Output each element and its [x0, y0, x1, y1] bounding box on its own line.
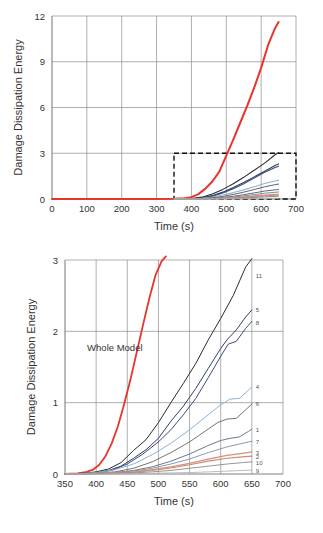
x-tick-label: 350 — [57, 478, 73, 489]
curve-end-label-10: 10 — [256, 460, 263, 466]
curve-end-label-6: 6 — [256, 401, 260, 407]
bottom-chart-svg: 3504004505005506006507000123Time (s)Dama… — [0, 240, 323, 533]
curve-end-label-1: 1 — [256, 427, 260, 433]
x-tick-label: 100 — [79, 203, 95, 214]
x-tick-label: 700 — [288, 203, 304, 214]
curve-whole-model — [52, 22, 279, 199]
y-tick-label: 0 — [40, 194, 45, 205]
y-axis-title: Damage Dissipation Energy — [25, 298, 37, 435]
curve-end-label-9: 9 — [256, 468, 260, 474]
x-axis-title: Time (s) — [154, 495, 194, 507]
y-tick-label: 12 — [34, 11, 45, 22]
y-axis-title: Damage Dissipation Energy — [12, 39, 24, 176]
x-tick-label: 0 — [49, 203, 54, 214]
x-tick-label: 500 — [218, 203, 234, 214]
y-tick-label: 1 — [53, 397, 58, 408]
y-tick-label: 6 — [40, 102, 45, 113]
x-tick-label: 550 — [182, 478, 198, 489]
curve-end-label-5: 5 — [256, 307, 260, 313]
x-tick-label: 700 — [275, 478, 291, 489]
x-axis-title: Time (s) — [154, 220, 194, 232]
whole-model-label: Whole Model — [87, 342, 142, 353]
x-tick-label: 400 — [88, 478, 104, 489]
curves-group — [52, 22, 279, 199]
x-tick-label: 600 — [213, 478, 229, 489]
curve-whole-model — [65, 256, 166, 474]
curve-end-label-7: 7 — [256, 439, 260, 445]
top-chart-svg: 0100200300400500600700036912Time (s)Dama… — [0, 0, 323, 240]
y-tick-label: 3 — [40, 148, 45, 159]
x-tick-label: 500 — [150, 478, 166, 489]
y-tick-label: 0 — [53, 469, 58, 480]
x-tick-label: 300 — [149, 203, 165, 214]
x-tick-label: 200 — [114, 203, 130, 214]
figure-container: 0100200300400500600700036912Time (s)Dama… — [0, 0, 323, 533]
y-tick-label: 3 — [53, 255, 58, 266]
chart-panel-top: 0100200300400500600700036912Time (s)Dama… — [0, 0, 323, 240]
x-tick-label: 600 — [253, 203, 269, 214]
x-tick-label: 650 — [244, 478, 260, 489]
y-tick-label: 9 — [40, 56, 45, 67]
y-tick-label: 2 — [53, 326, 58, 337]
curve-end-label-11: 11 — [256, 273, 263, 279]
curve-end-labels: 1158461732109 — [256, 273, 263, 474]
x-tick-label: 400 — [183, 203, 199, 214]
curve-end-label-4: 4 — [256, 384, 260, 390]
gridlines — [52, 16, 296, 199]
curve-end-label-8: 8 — [256, 320, 260, 326]
x-tick-label: 450 — [119, 478, 135, 489]
chart-panel-bottom: 3504004505005506006507000123Time (s)Dama… — [0, 240, 323, 533]
